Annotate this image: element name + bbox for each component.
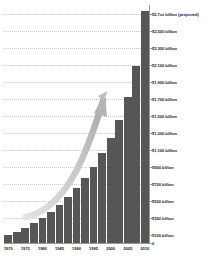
- y-axis-tick: [149, 243, 152, 244]
- y-axis-tick: [149, 218, 152, 219]
- bar: [107, 138, 115, 243]
- bar: [13, 232, 21, 243]
- y-axis-labels: $2,7xx billion (projected)$2,500 billion…: [152, 0, 210, 260]
- y-axis-tick-label: $1,300 billion: [152, 130, 177, 135]
- y-axis-tick: [149, 99, 152, 100]
- x-axis-tick-label: 2000: [106, 246, 115, 251]
- bar: [141, 11, 149, 243]
- bar: [56, 205, 64, 243]
- y-axis-tick: [149, 116, 152, 117]
- y-axis-tick: [149, 82, 152, 83]
- y-axis-tick-label: $1,500 billion: [152, 113, 177, 118]
- y-axis-tick-label: $2,300 billion: [152, 45, 177, 50]
- bar: [98, 153, 106, 243]
- y-axis-tick-label: $1,100 billion: [152, 147, 177, 152]
- y-axis-tick-label: $2,500 billion: [152, 28, 177, 33]
- bars: [4, 5, 149, 243]
- y-axis-tick: [149, 235, 152, 236]
- y-axis-tick-label: 0: [152, 241, 154, 246]
- y-axis-tick-label: $1,700 billion: [152, 96, 177, 101]
- y-axis-tick-label: $300 billion: [152, 215, 174, 220]
- x-axis-tick-label: 1995: [89, 246, 98, 251]
- y-axis-tick: [149, 150, 152, 151]
- y-axis-tick: [149, 184, 152, 185]
- x-axis-tick-label: 1975: [21, 246, 30, 251]
- bar: [64, 197, 72, 243]
- x-axis-tick-label: 2010: [140, 246, 149, 251]
- bar: [132, 66, 140, 243]
- x-axis-labels: 197019751980198519901995200020052010: [4, 246, 149, 256]
- x-axis-tick-label: 2005: [123, 246, 132, 251]
- bar: [21, 228, 29, 243]
- y-axis-tick-label: $500 billion: [152, 198, 174, 203]
- bar: [39, 218, 47, 244]
- y-axis-tick-label: $900 billion: [152, 164, 174, 169]
- bar-chart: $2,7xx billion (projected)$2,500 billion…: [0, 0, 210, 260]
- bar: [124, 97, 132, 243]
- y-axis-tick-label: $2,7xx billion (projected): [152, 11, 199, 16]
- x-axis-tick-label: 1980: [38, 246, 47, 251]
- y-axis-tick-label: $700 billion: [152, 181, 174, 186]
- y-axis-tick: [149, 31, 152, 32]
- bar: [90, 167, 98, 244]
- y-axis-tick: [149, 65, 152, 66]
- y-axis-tick: [149, 167, 152, 168]
- bar: [115, 120, 123, 243]
- y-axis-line: [149, 5, 150, 244]
- y-axis-tick-label: $1,900 billion: [152, 79, 177, 84]
- x-axis-line: [4, 243, 150, 244]
- y-axis-tick: [149, 133, 152, 134]
- bar: [81, 178, 89, 243]
- y-axis-tick-label: $100 billion: [152, 232, 174, 237]
- x-axis-tick-label: 1970: [4, 246, 13, 251]
- y-axis-tick: [149, 201, 152, 202]
- x-axis-tick-label: 1990: [72, 246, 81, 251]
- bar: [30, 223, 38, 243]
- y-axis-tick: [149, 48, 152, 49]
- y-axis-tick-label: $2,100 billion: [152, 62, 177, 67]
- x-axis-tick-label: 1985: [55, 246, 64, 251]
- bar: [4, 235, 12, 243]
- y-axis-tick: [149, 14, 152, 15]
- bar: [47, 212, 55, 243]
- bar: [73, 188, 81, 243]
- plot-area: [4, 5, 149, 243]
